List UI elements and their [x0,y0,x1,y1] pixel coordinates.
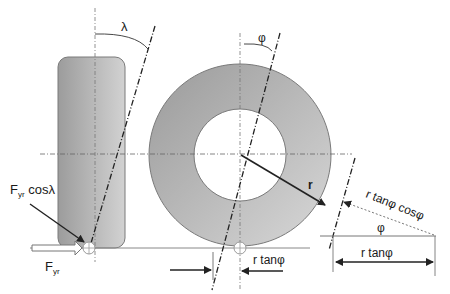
r-tanphi-cosphi-label: r tanφ cosφ [364,187,427,223]
lateral-force-arrow [32,241,82,255]
lambda-arc [95,34,148,49]
detail-phi-label: φ [377,221,385,235]
tyre-front-view [58,57,125,248]
lateral-force-label: Fyr [45,259,60,276]
radius-label: r [308,178,313,192]
offset-label: r tanφ [253,253,285,267]
lambda-label: λ [121,19,128,34]
force-component-label: Fyr cosλ [10,182,55,199]
right-contact-point [234,242,246,254]
left-contact-point [83,242,95,254]
tyre-diagram: λ φ r Fyr Fyr cosλ r tanφ r tanφ cosφ φ … [0,0,450,294]
detail-r-tanphi-label: r tanφ [361,246,393,260]
phi-top-label: φ [258,31,266,45]
tyre-side-view-ring [149,64,331,246]
